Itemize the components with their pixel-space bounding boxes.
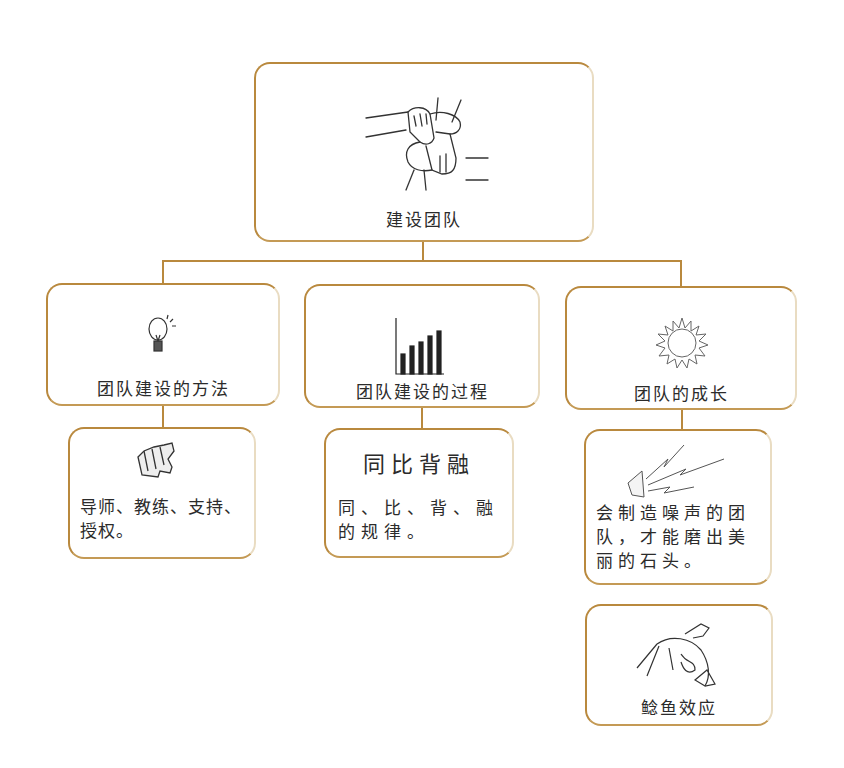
branch-node-methods: 团队建设的方法: [46, 283, 280, 406]
megaphone-icon: [624, 439, 744, 503]
connector-root-down: [422, 240, 424, 261]
connector-process-down: [421, 406, 423, 430]
catfish-label: 鲶鱼效应: [587, 694, 771, 719]
joined-hands-icon: [356, 92, 496, 192]
detail-text-process: 同、比、背、融的规律。: [338, 496, 506, 544]
root-label: 建设团队: [256, 206, 592, 231]
detail-title-process: 同比背融: [326, 446, 512, 478]
connector-horizontal: [162, 260, 682, 262]
detail-node-catfish: 鲶鱼效应: [585, 604, 773, 726]
branch-label-growth: 团队的成长: [567, 380, 795, 405]
fist-icon: [134, 441, 182, 481]
root-node: 建设团队: [254, 62, 594, 242]
catfish-icon: [635, 620, 727, 690]
detail-node-growth: 会制造噪声的团队，才能磨出美丽的石头。: [584, 429, 772, 585]
lightbulb-icon: [146, 313, 180, 359]
detail-text-methods: 导师、教练、支持、授权。: [80, 495, 250, 543]
detail-text-growth: 会制造噪声的团队，才能磨出美丽的石头。: [596, 501, 768, 573]
branch-node-process: 团队建设的过程: [304, 284, 540, 408]
connector-right-down: [680, 260, 682, 287]
connector-left-down: [162, 260, 164, 284]
branch-node-growth: 团队的成长: [565, 286, 797, 410]
connector-method-down: [162, 404, 164, 428]
branch-label-methods: 团队建设的方法: [48, 375, 278, 400]
sun-icon: [655, 316, 709, 370]
bar-chart-icon: [392, 316, 446, 376]
detail-node-process: 同比背融 同、比、背、融的规律。: [324, 428, 514, 558]
branch-label-process: 团队建设的过程: [306, 378, 538, 403]
detail-node-methods: 导师、教练、支持、授权。: [68, 427, 256, 559]
